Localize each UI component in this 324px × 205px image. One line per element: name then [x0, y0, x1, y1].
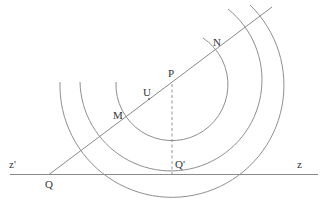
point-u-marker: [148, 98, 150, 100]
label-z-prime: z': [9, 158, 16, 170]
label-n: N: [213, 36, 221, 48]
label-u: U: [143, 86, 151, 98]
label-p: P: [168, 67, 174, 79]
label-z: z: [297, 158, 302, 170]
label-q: Q: [45, 178, 53, 190]
middle-arc: [80, 9, 262, 171]
geometry-diagram: N P U M Q' z' z Q: [0, 0, 324, 205]
ray-line-q-n: [49, 7, 272, 175]
label-q-prime: Q': [175, 158, 185, 170]
label-m: M: [113, 109, 123, 121]
